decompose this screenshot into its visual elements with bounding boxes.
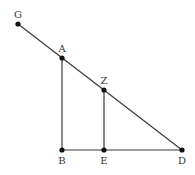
point-z: Z <box>101 75 108 93</box>
point-b: B <box>58 147 65 166</box>
point-d-label: D <box>178 155 186 166</box>
point-a: A <box>57 43 66 61</box>
point-b-label: B <box>58 155 65 166</box>
point-e: E <box>100 147 107 166</box>
point-a-label: A <box>57 43 66 54</box>
geometry-diagram: G A Z B E D <box>0 0 195 175</box>
point-z-label: Z <box>101 75 108 86</box>
point-e-dot <box>101 147 106 152</box>
point-z-dot <box>101 87 106 92</box>
segment-gd <box>18 24 182 150</box>
point-a-dot <box>59 55 64 60</box>
point-g-dot <box>15 21 20 26</box>
point-b-dot <box>59 147 64 152</box>
point-d-dot <box>179 147 184 152</box>
point-e-label: E <box>100 155 107 166</box>
point-g: G <box>14 9 22 27</box>
point-g-label: G <box>14 9 22 20</box>
segments <box>18 24 182 150</box>
